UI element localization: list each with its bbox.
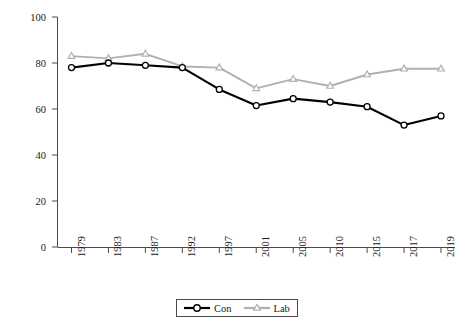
data-point-con xyxy=(364,104,370,110)
x-tick-label: 2015 xyxy=(371,236,382,257)
data-point-con xyxy=(216,86,222,92)
legend-label-lab: Lab xyxy=(274,303,290,314)
legend-entry-lab[interactable]: Lab xyxy=(244,302,290,314)
x-tick-label: 2019 xyxy=(445,236,456,257)
legend-marker-lab xyxy=(244,302,270,314)
x-tick-label: 2005 xyxy=(297,236,308,257)
legend-label-con: Con xyxy=(214,303,232,314)
chart-legend: Con Lab xyxy=(176,299,298,317)
data-point-lab xyxy=(216,64,223,70)
x-tick-label: 1997 xyxy=(223,236,234,257)
series-line-lab xyxy=(72,54,442,89)
chart-figure: As a proportion of party's vote (%) 0204… xyxy=(0,0,463,328)
data-point-con xyxy=(438,113,444,119)
x-tick-label: 1979 xyxy=(76,236,87,257)
data-point-con xyxy=(253,103,259,109)
x-tick-label: 1992 xyxy=(186,236,197,257)
x-tick-label: 1983 xyxy=(112,236,123,257)
x-tick-label: 2017 xyxy=(408,236,419,257)
x-axis-ticks xyxy=(72,248,442,254)
x-tick-label: 1987 xyxy=(149,236,160,257)
data-point-con xyxy=(327,99,333,105)
data-point-lab xyxy=(401,65,408,71)
data-point-lab xyxy=(253,85,260,91)
data-series-group xyxy=(68,50,444,128)
legend-entry-con[interactable]: Con xyxy=(184,302,232,314)
data-point-con xyxy=(69,65,75,71)
data-point-con xyxy=(290,96,296,102)
data-point-con xyxy=(179,65,185,71)
data-point-lab xyxy=(438,65,445,71)
data-point-lab xyxy=(327,82,334,88)
data-point-lab xyxy=(142,50,149,56)
axis-lines xyxy=(58,17,456,248)
data-point-con xyxy=(105,60,111,66)
data-point-lab xyxy=(364,71,371,77)
x-tick-label: 2010 xyxy=(334,236,345,257)
data-point-lab xyxy=(68,53,75,59)
plot-area xyxy=(0,0,463,328)
data-point-con xyxy=(401,122,407,128)
data-point-lab xyxy=(290,76,297,82)
x-tick-label: 2001 xyxy=(260,236,271,257)
data-point-con xyxy=(142,62,148,68)
legend-marker-con xyxy=(184,302,210,314)
y-axis-ticks xyxy=(52,17,58,247)
